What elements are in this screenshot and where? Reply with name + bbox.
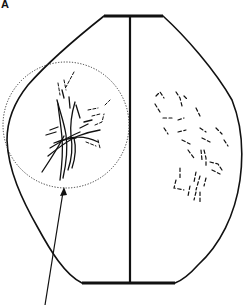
right-dashed-pattern <box>155 92 228 202</box>
specimen-outline <box>7 16 242 283</box>
diagram-canvas <box>0 0 244 305</box>
left-branching-pattern <box>42 90 100 180</box>
highlight-circle <box>3 62 129 188</box>
